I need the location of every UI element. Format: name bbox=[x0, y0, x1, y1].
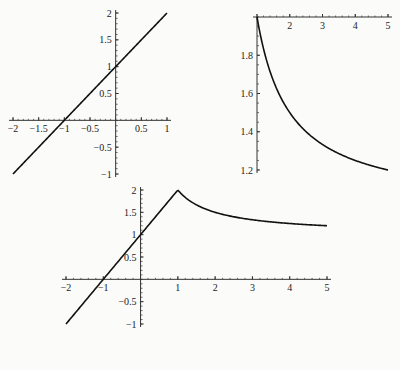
x-tick-label: 2 bbox=[213, 282, 218, 293]
x-tick-label: −0.5 bbox=[81, 123, 99, 134]
x-tick-label: −1.5 bbox=[30, 123, 48, 134]
function-curve bbox=[66, 190, 327, 324]
y-tick-label: 1.6 bbox=[241, 88, 254, 99]
charts-canvas: −2−1.5−1−0.50.5121.510.5−0.5−123451.81.6… bbox=[0, 0, 400, 370]
y-tick-label: −1 bbox=[126, 319, 137, 330]
x-tick-label: 5 bbox=[325, 282, 330, 293]
x-tick-label: 1 bbox=[175, 282, 180, 293]
x-tick-label: 4 bbox=[287, 282, 292, 293]
x-tick-label: 2 bbox=[287, 20, 292, 31]
chart-top-left: −2−1.5−1−0.50.5121.510.5−0.5−1 bbox=[8, 8, 171, 180]
y-tick-label: 1.5 bbox=[124, 207, 137, 218]
y-tick-label: 2 bbox=[107, 8, 112, 19]
y-tick-label: 1.5 bbox=[99, 34, 112, 45]
y-tick-label: −0.5 bbox=[118, 296, 136, 307]
function-curve bbox=[257, 17, 388, 170]
x-tick-label: 5 bbox=[386, 20, 391, 31]
x-tick-label: −2 bbox=[61, 282, 72, 293]
function-curve bbox=[13, 13, 167, 174]
x-tick-label: −2 bbox=[8, 123, 19, 134]
x-tick-label: 0.5 bbox=[135, 123, 148, 134]
y-tick-label: 1.4 bbox=[241, 126, 254, 137]
y-tick-label: 2 bbox=[132, 185, 137, 196]
y-tick-label: −1 bbox=[101, 169, 112, 180]
x-tick-label: 3 bbox=[320, 20, 325, 31]
y-tick-label: 0.5 bbox=[99, 88, 112, 99]
y-tick-label: 1.8 bbox=[241, 50, 254, 61]
y-tick-label: 1 bbox=[132, 229, 137, 240]
y-tick-label: 1.2 bbox=[241, 165, 254, 176]
chart-top-right: 23451.81.61.41.2 bbox=[241, 14, 393, 176]
x-tick-label: 3 bbox=[250, 282, 255, 293]
y-tick-label: −0.5 bbox=[94, 142, 112, 153]
x-tick-label: 4 bbox=[353, 20, 358, 31]
x-tick-label: 1 bbox=[165, 123, 170, 134]
chart-bottom: −2−11234521.510.5−0.5−1 bbox=[61, 185, 331, 330]
